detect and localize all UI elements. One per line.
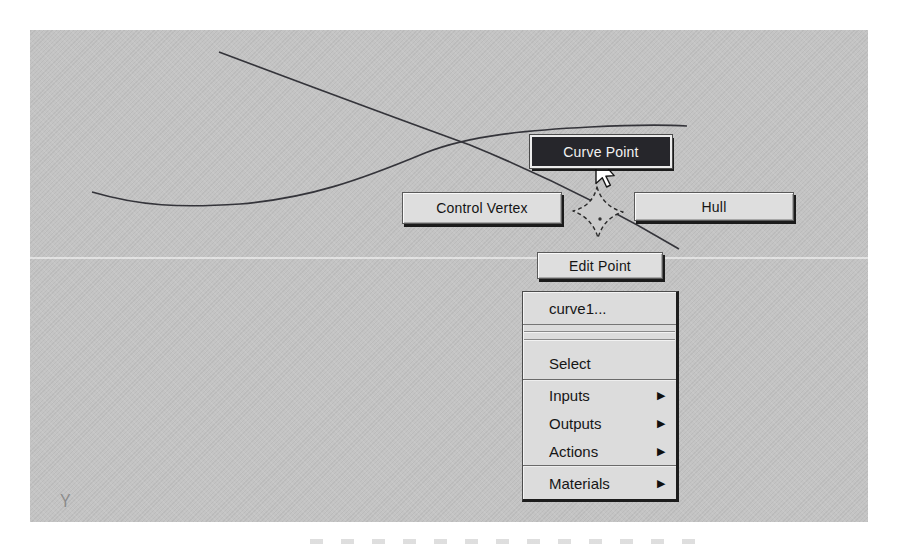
viewport-canvas[interactable]: [30, 30, 868, 522]
hull-label: Hull: [702, 199, 727, 215]
edit-point-label: Edit Point: [569, 258, 631, 274]
menu-groove: [524, 339, 675, 341]
submenu-arrow-icon: ▶: [657, 478, 665, 489]
menu-item-label: Outputs: [549, 415, 602, 432]
menu-item-label: Actions: [549, 443, 598, 460]
star-center-dot: [598, 217, 601, 220]
context-menu-title[interactable]: curve1...: [523, 292, 676, 325]
marking-menu-edit-point-button[interactable]: Edit Point: [537, 252, 663, 279]
marking-menu-control-vertex-button[interactable]: Control Vertex: [402, 192, 562, 224]
menu-item-label: Inputs: [549, 387, 590, 404]
submenu-arrow-icon: ▶: [657, 446, 665, 457]
context-menu: curve1... Select Inputs ▶ Outputs ▶ Acti…: [522, 291, 679, 502]
marking-menu-hull-button[interactable]: Hull: [634, 192, 794, 221]
menu-item-outputs[interactable]: Outputs ▶: [523, 409, 676, 437]
curve-point-label: Curve Point: [563, 144, 638, 160]
submenu-arrow-icon: ▶: [657, 390, 665, 401]
view-axis-y-marker: Y: [60, 491, 71, 511]
viewport-graphics: [30, 30, 868, 522]
menu-item-inputs[interactable]: Inputs ▶: [523, 381, 676, 409]
figure-page: Curve Point Control Vertex Hull Edit Poi…: [0, 0, 898, 550]
cropped-caption-remnant: [310, 539, 702, 544]
menu-item-label: Materials: [549, 475, 610, 492]
context-menu-title-label: curve1...: [549, 300, 607, 317]
menu-item-actions[interactable]: Actions ▶: [523, 437, 676, 465]
menu-separator-zone: [523, 325, 676, 347]
menu-item-materials[interactable]: Materials ▶: [523, 467, 676, 499]
menu-item-select[interactable]: Select: [523, 347, 676, 379]
control-vertex-label: Control Vertex: [436, 200, 528, 216]
menu-item-label: Select: [549, 355, 591, 372]
marking-menu-curve-point-button[interactable]: Curve Point: [530, 135, 672, 168]
submenu-arrow-icon: ▶: [657, 418, 665, 429]
menu-groove: [524, 331, 675, 333]
